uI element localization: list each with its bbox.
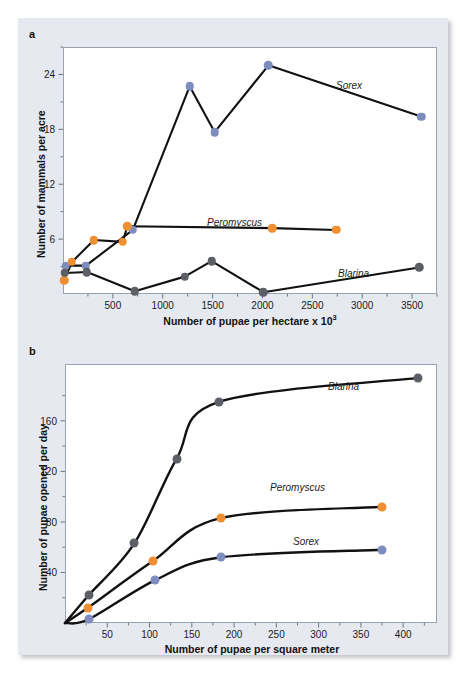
panel-a-x-axis-title: Number of pupae per hectare x 103 [163,313,336,327]
data-point-marker [264,61,273,70]
series-label-blarina: Blarina [328,381,359,392]
tick-label-y: 24 [33,69,55,80]
tick-label-x: 150 [183,629,200,640]
tick-label-x: 3500 [401,300,423,311]
data-point-marker [84,615,93,624]
series-label-blarina: Blarina [338,268,369,279]
panel-b: b 501001502002503003504004080120160 Blar… [18,338,448,655]
series-label-peromyscus: Peromyscus [270,482,325,493]
data-point-marker [216,514,225,523]
panel-b-y-axis-title: Number of pupae opened per day [37,424,49,591]
tick-label-x: 400 [395,629,412,640]
data-point-marker [148,557,157,566]
data-point-marker [60,276,69,285]
data-point-marker [172,454,181,463]
data-point-marker [415,263,424,272]
data-point-marker [123,222,132,231]
panel-a-x-axis-title-exponent: 3 [333,313,337,322]
panel-a-y-axis-title: Number of mammals per acre [35,110,47,258]
data-point-marker [90,236,99,245]
data-point-marker [151,576,160,585]
tick-label-x: 3000 [351,300,373,311]
data-point-marker [210,128,219,137]
panel-a-plot-svg [18,18,448,338]
data-point-marker [83,268,92,277]
data-point-marker [414,373,423,382]
tick-label-x: 200 [226,629,243,640]
data-point-marker [417,112,426,121]
tick-label-x: 1000 [152,300,174,311]
tick-label-x: 500 [105,300,122,311]
panel-b-x-axis-title: Number of pupae per square meter [165,641,339,655]
tick-label-x: 350 [353,629,370,640]
data-point-marker [378,502,387,511]
tick-label-x: 1500 [201,300,223,311]
panel-a-x-axis-title-text: Number of pupae per hectare x 10 [163,315,332,327]
data-point-marker [378,545,387,554]
data-point-marker [217,553,226,562]
tick-label-x: 300 [310,629,327,640]
tick-label-x: 100 [141,629,158,640]
data-point-marker [259,288,268,297]
data-point-marker [131,287,140,296]
series-line [66,65,421,265]
series-label-sorex: Sorex [336,80,362,91]
series-label-sorex: Sorex [293,536,319,547]
series-label-peromyscus: Peromyscus [207,217,262,228]
tick-label-x: 250 [268,629,285,640]
data-point-marker [61,269,70,278]
data-point-marker [130,539,139,548]
panel-b-x-axis-title-text: Number of pupae per square meter [165,643,339,655]
data-point-marker [214,397,223,406]
data-point-marker [268,224,277,233]
series-line [64,226,336,280]
figure-container: a 5001000150020002500300035006121824 Sor… [18,18,448,655]
data-point-marker [207,257,216,266]
panel-a: a 5001000150020002500300035006121824 Sor… [18,18,448,338]
data-point-marker [332,226,341,235]
tick-label-x: 2000 [251,300,273,311]
data-point-marker [180,272,189,281]
tick-label-x: 50 [102,629,113,640]
data-point-marker [84,591,93,600]
data-point-marker [119,238,128,247]
tick-label-x: 2500 [301,300,323,311]
data-point-marker [185,82,194,91]
data-point-marker [83,603,92,612]
data-point-marker [68,258,77,267]
